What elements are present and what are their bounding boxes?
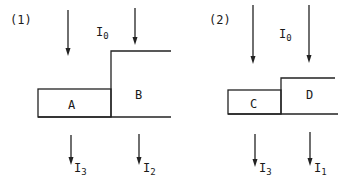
- incident-arrow-left-icon: [251, 5, 256, 64]
- region-B-label: B: [135, 88, 142, 102]
- transmitted-intensity-B-label: I2: [143, 161, 156, 177]
- transmitted-arrow-B-icon: [137, 134, 142, 165]
- incident-arrow-left-icon: [66, 10, 71, 56]
- region-B-outline: [111, 51, 171, 117]
- panel-2-label: (2): [209, 13, 231, 27]
- transmitted-intensity-C-label: I3: [259, 161, 272, 177]
- incident-arrow-right-icon: [307, 5, 312, 63]
- transmitted-arrow-C-icon: [253, 134, 258, 167]
- panel-1-label: (1): [10, 13, 32, 27]
- panel-1: (1) I0 A B I3 I2: [10, 8, 171, 177]
- panel-2: (2) I0 C D I3 I1: [209, 5, 338, 177]
- diagram-canvas: (1) I0 A B I3 I2 (2): [0, 0, 356, 194]
- region-C-label: C: [250, 97, 257, 111]
- incident-intensity-label: I0: [279, 27, 292, 43]
- incident-arrow-right-icon: [133, 8, 138, 45]
- incident-intensity-label: I0: [96, 25, 109, 41]
- transmitted-intensity-A-label: I3: [74, 161, 87, 177]
- transmitted-intensity-D-label: I1: [314, 161, 327, 177]
- transmitted-arrow-A-icon: [69, 135, 74, 165]
- region-D-label: D: [306, 88, 313, 102]
- region-A-label: A: [68, 98, 76, 112]
- transmitted-arrow-D-icon: [308, 132, 313, 166]
